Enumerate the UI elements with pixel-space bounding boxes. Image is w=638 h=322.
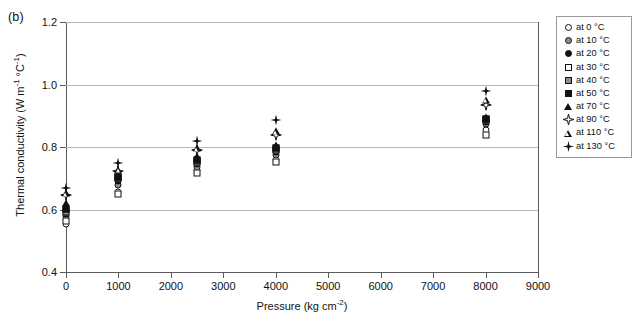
x-tick (538, 272, 539, 278)
y-tick (60, 85, 66, 86)
marker-open-square-icon (194, 169, 201, 176)
legend-label: at 0 °C (576, 23, 605, 32)
x-tick (118, 272, 119, 278)
legend-marker (561, 127, 575, 140)
data-point (61, 183, 72, 194)
data-point (272, 159, 279, 166)
x-axis-title-text: Pressure (kg cm-2) (257, 300, 348, 312)
marker-open-triangle-icon (272, 128, 280, 135)
x-tick-label: 5000 (316, 280, 340, 292)
y-axis-title: Thermal conductivity (W m-1 °C-1) (14, 20, 26, 250)
marker-fill-triangle-icon (272, 142, 280, 149)
x-tick (223, 272, 224, 278)
legend-label: at 20 °C (576, 49, 610, 58)
x-tick-label: 1000 (106, 280, 130, 292)
legend-item[interactable]: at 0 °C (561, 21, 628, 34)
y-tick-label: 0.6 (42, 204, 57, 216)
marker-fill-square-icon (565, 90, 572, 97)
legend-item[interactable]: at 70 °C (561, 100, 628, 113)
legend-label: at 50 °C (576, 89, 610, 98)
legend-marker (561, 47, 575, 60)
marker-open-square-icon (482, 131, 489, 138)
legend-marker (561, 74, 575, 87)
marker-open-square-icon (565, 64, 572, 71)
x-tick-label: 6000 (368, 280, 392, 292)
x-axis-line (66, 272, 538, 273)
data-point (270, 115, 281, 126)
legend-item[interactable]: at 10 °C (561, 34, 628, 47)
marker-plus4-icon (113, 158, 124, 169)
legend-item[interactable]: at 30 °C (561, 61, 628, 74)
marker-open-triangle-icon (564, 130, 572, 137)
legend-marker (561, 87, 575, 100)
legend-label: at 90 °C (576, 115, 610, 124)
plot-right-border (538, 22, 539, 272)
marker-star4-icon (563, 114, 574, 125)
data-point (272, 142, 280, 149)
gridline-y (66, 147, 538, 148)
x-tick-label: 0 (63, 280, 69, 292)
legend-item[interactable]: at 110 °C (561, 127, 628, 140)
marker-plus4-icon (563, 141, 574, 152)
y-tick-label: 0.8 (42, 141, 57, 153)
marker-fill-circle-icon (565, 50, 572, 57)
y-tick (60, 147, 66, 148)
legend-label: at 110 °C (576, 128, 614, 137)
x-tick (433, 272, 434, 278)
legend-item[interactable]: at 130 °C (561, 140, 628, 153)
data-point (482, 97, 490, 104)
y-axis-title-text: Thermal conductivity (W m-1 °C-1) (14, 53, 26, 216)
plot-top-border (66, 22, 538, 23)
marker-plus4-icon (61, 183, 72, 194)
marker-plus4-icon (192, 135, 203, 146)
data-point (63, 218, 70, 225)
x-tick (66, 272, 67, 278)
legend-marker (561, 100, 575, 113)
legend-marker (561, 34, 575, 47)
legend-item[interactable]: at 20 °C (561, 47, 628, 60)
gridline-y (66, 85, 538, 86)
data-point (194, 169, 201, 176)
x-tick-label: 4000 (264, 280, 288, 292)
data-point (482, 131, 489, 138)
marker-open-square-icon (115, 190, 122, 197)
x-tick (276, 272, 277, 278)
marker-fill-square-icon (63, 205, 70, 212)
x-axis-title: Pressure (kg cm-2) (66, 300, 538, 312)
legend-item[interactable]: at 50 °C (561, 87, 628, 100)
x-tick (171, 272, 172, 278)
gridline-y (66, 210, 538, 211)
x-tick-label: 8000 (473, 280, 497, 292)
marker-fill-triangle-icon (482, 114, 490, 121)
figure-panel-b: (b) Thermal conductivity (W m-1 °C-1) 0.… (0, 0, 638, 322)
marker-plus4-icon (270, 115, 281, 126)
marker-open-circle-icon (565, 24, 572, 31)
data-point (192, 135, 203, 146)
y-tick-label: 0.4 (42, 266, 57, 278)
data-point (63, 205, 70, 212)
data-point (480, 85, 491, 96)
legend: at 0 °Cat 10 °Cat 20 °Cat 30 °Cat 40 °Ca… (556, 16, 632, 158)
y-tick-label: 1.0 (42, 79, 57, 91)
legend-label: at 130 °C (576, 142, 615, 151)
data-point (272, 128, 280, 135)
x-tick (486, 272, 487, 278)
legend-item[interactable]: at 40 °C (561, 74, 628, 87)
x-tick (381, 272, 382, 278)
data-point (115, 190, 122, 197)
data-point (113, 158, 124, 169)
marker-gray-circle-icon (565, 37, 572, 44)
legend-item[interactable]: at 90 °C (561, 113, 628, 126)
x-tick-label: 2000 (159, 280, 183, 292)
marker-open-square-icon (272, 159, 279, 166)
x-tick (328, 272, 329, 278)
legend-marker (561, 140, 575, 153)
y-tick-label: 1.2 (42, 16, 57, 28)
marker-plus4-icon (480, 85, 491, 96)
legend-label: at 10 °C (576, 36, 610, 45)
marker-gray-square-icon (565, 77, 572, 84)
x-tick-label: 9000 (526, 280, 550, 292)
plot-area: 0.40.60.81.01.2 010002000300040005000600… (66, 22, 538, 272)
marker-fill-triangle-icon (564, 103, 572, 110)
x-tick-label: 3000 (211, 280, 235, 292)
